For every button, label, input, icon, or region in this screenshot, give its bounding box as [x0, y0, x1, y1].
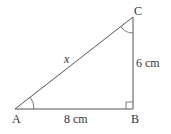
vertex-label-b: B — [131, 112, 139, 126]
triangle-abc — [15, 17, 133, 109]
side-label-bc: 6 cm — [136, 56, 160, 70]
right-angle-mark-b — [126, 102, 133, 109]
triangle-diagram: A B C 8 cm 6 cm x — [0, 0, 171, 134]
vertex-label-a: A — [12, 112, 21, 126]
side-label-ac: x — [63, 52, 70, 66]
vertex-label-c: C — [134, 4, 142, 18]
side-label-ab: 8 cm — [64, 112, 88, 126]
angle-arc-a — [30, 97, 34, 109]
angle-arc-c — [121, 27, 133, 33]
